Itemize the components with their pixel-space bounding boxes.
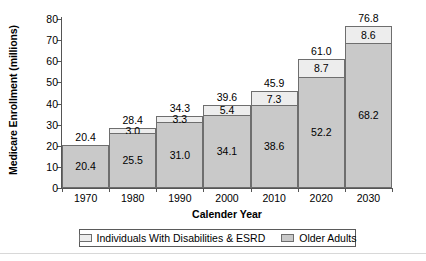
x-tick-label: 2020	[298, 192, 345, 204]
bar-total-label: 39.6	[203, 91, 250, 103]
x-axis-tick-labels: 1970198019902000201020202030	[62, 192, 392, 204]
legend-item-older-adults: Older Adults	[281, 232, 356, 244]
legend-item-disabilities-esrd: Individuals With Disabilities & ESRD	[79, 232, 266, 244]
bar-total-label: 28.4	[109, 114, 156, 126]
bar-segment-older-adults[interactable]: 68.2	[345, 44, 392, 188]
bar-column[interactable]: 20.420.4	[62, 19, 109, 188]
chart-screenshot: Medicare Enrollment (millions) 010203040…	[0, 0, 426, 261]
bar-stack: 3.025.528.4	[109, 128, 156, 188]
bar-total-label: 20.4	[62, 131, 109, 143]
bar-segment-value-label: 38.6	[264, 141, 284, 152]
bar-column[interactable]: 7.338.645.9	[251, 19, 298, 188]
x-tick-label: 2010	[251, 192, 298, 204]
bar-segment-older-adults[interactable]: 25.5	[109, 134, 156, 188]
x-tick-label: 2030	[345, 192, 392, 204]
y-axis-title: Medicare Enrollment (millions)	[2, 0, 24, 200]
bottom-divider	[0, 253, 426, 254]
bar-segment-older-adults[interactable]: 31.0	[156, 123, 203, 188]
bar-column[interactable]: 3.025.528.4	[109, 19, 156, 188]
bar-column[interactable]: 5.434.139.6	[203, 19, 250, 188]
bar-segment-value-label: 5.4	[220, 105, 235, 116]
y-tick-label: 80	[46, 13, 58, 25]
bar-segment-older-adults[interactable]: 38.6	[251, 106, 298, 188]
bar-segment-disabilities-esrd[interactable]: 8.7	[298, 59, 345, 77]
bar-stack: 7.338.645.9	[251, 91, 298, 188]
bar-segment-disabilities-esrd[interactable]: 3.3	[156, 116, 203, 123]
legend-label-disabilities-esrd: Individuals With Disabilities & ESRD	[97, 232, 266, 244]
bar-column[interactable]: 3.331.034.3	[156, 19, 203, 188]
legend-swatch-icon-older-adults	[281, 234, 294, 242]
bar-stack: 3.331.034.3	[156, 116, 203, 188]
y-tick-label: 20	[46, 140, 58, 152]
y-tick-label: 70	[46, 34, 58, 46]
bar-stack: 20.420.4	[62, 145, 109, 188]
bar-segment-disabilities-esrd[interactable]: 7.3	[251, 91, 298, 106]
legend-swatch-icon-disabilities-esrd	[79, 234, 92, 242]
bar-stack: 8.668.276.8	[345, 26, 392, 188]
bar-segment-value-label: 7.3	[267, 94, 282, 105]
chart-legend: Individuals With Disabilities & ESRD Old…	[79, 229, 356, 247]
bar-total-label: 76.8	[345, 12, 392, 24]
bar-stack: 5.434.139.6	[203, 105, 250, 188]
bar-segment-older-adults[interactable]: 52.2	[298, 78, 345, 188]
y-tick-label: 40	[46, 98, 58, 110]
y-axis-title-text: Medicare Enrollment (millions)	[7, 25, 19, 175]
y-tick-label: 10	[46, 161, 58, 173]
bar-column[interactable]: 8.668.276.8	[345, 19, 392, 188]
bar-total-label: 34.3	[156, 102, 203, 114]
bar-segment-value-label: 52.2	[311, 127, 331, 138]
bar-series-group: 20.420.43.025.528.43.331.034.35.434.139.…	[62, 19, 392, 188]
plot-area: 01020304050607080 20.420.43.025.528.43.3…	[62, 19, 392, 188]
x-tick-mark	[392, 188, 393, 192]
y-tick-label: 0	[52, 182, 58, 194]
legend-label-older-adults: Older Adults	[299, 232, 356, 244]
bar-stack: 8.752.261.0	[298, 59, 345, 188]
x-axis-line	[57, 188, 393, 189]
bar-segment-disabilities-esrd[interactable]: 5.4	[203, 105, 250, 116]
bar-segment-value-label: 8.7	[314, 63, 329, 74]
y-tick-label: 50	[46, 76, 58, 88]
bar-total-label: 45.9	[251, 77, 298, 89]
bar-segment-value-label: 20.4	[75, 161, 95, 172]
bar-segment-value-label: 8.6	[361, 30, 376, 41]
bar-segment-older-adults[interactable]: 20.4	[62, 145, 109, 188]
bar-segment-value-label: 25.5	[122, 155, 142, 166]
x-tick-label: 1990	[156, 192, 203, 204]
y-tick-label: 60	[46, 55, 58, 67]
bar-segment-value-label: 68.2	[358, 110, 378, 121]
x-axis-title: Calender Year	[62, 208, 392, 220]
bar-segment-older-adults[interactable]: 34.1	[203, 116, 250, 188]
bar-segment-value-label: 31.0	[170, 150, 190, 161]
x-tick-label: 1970	[62, 192, 109, 204]
x-tick-label: 1980	[109, 192, 156, 204]
x-tick-label: 2000	[203, 192, 250, 204]
y-tick-label: 30	[46, 119, 58, 131]
bar-column[interactable]: 8.752.261.0	[298, 19, 345, 188]
bar-segment-value-label: 34.1	[217, 146, 237, 157]
bar-total-label: 61.0	[298, 45, 345, 57]
bar-segment-disabilities-esrd[interactable]: 8.6	[345, 26, 392, 44]
